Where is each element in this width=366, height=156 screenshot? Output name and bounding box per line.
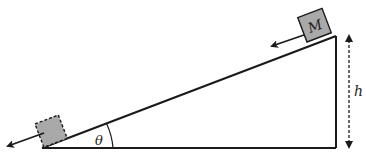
velocity-arrow-bottom [8,133,44,146]
block-top: M [298,8,332,42]
incline-diagram: θ M h [0,0,366,156]
incline-slope [42,36,336,148]
angle-label: θ [95,133,103,148]
angle-arc [107,123,114,148]
height-label: h [354,83,363,99]
block-bottom [35,115,67,147]
height-arrow-up-icon [345,34,353,42]
height-indicator [345,34,353,149]
height-arrow-down-icon [345,141,353,149]
block-bottom-body [35,115,67,147]
velocity-arrow-top [272,35,304,46]
incline-plane [42,36,336,148]
